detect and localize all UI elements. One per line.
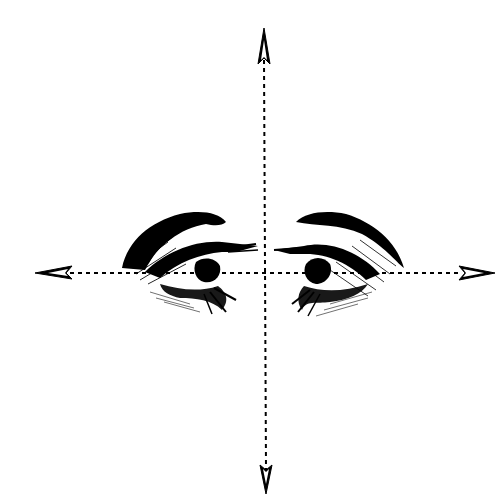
eyes-crosshair-illustration xyxy=(0,0,504,495)
